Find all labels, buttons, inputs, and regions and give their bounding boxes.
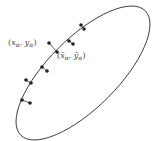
foot-point [29,81,33,85]
projection-line [49,43,57,52]
data-point [24,78,28,82]
data-point [45,69,49,73]
foot-point [82,27,86,31]
data-point [28,101,32,105]
data-point [79,23,83,27]
foot-point [67,39,71,43]
foot-point [20,98,24,102]
data-point [47,41,51,45]
foot-point-label: (x̄α, ȳα) [57,52,86,61]
foot-point [40,65,44,69]
fitted-ellipse [0,0,157,141]
point-pairs [20,23,86,105]
diagram-svg [0,0,157,141]
ellipse-fitting-diagram: (xα, yα) (x̄α, ȳα) [0,0,157,141]
data-point [71,42,75,46]
data-point-label: (xα, yα) [8,39,37,48]
